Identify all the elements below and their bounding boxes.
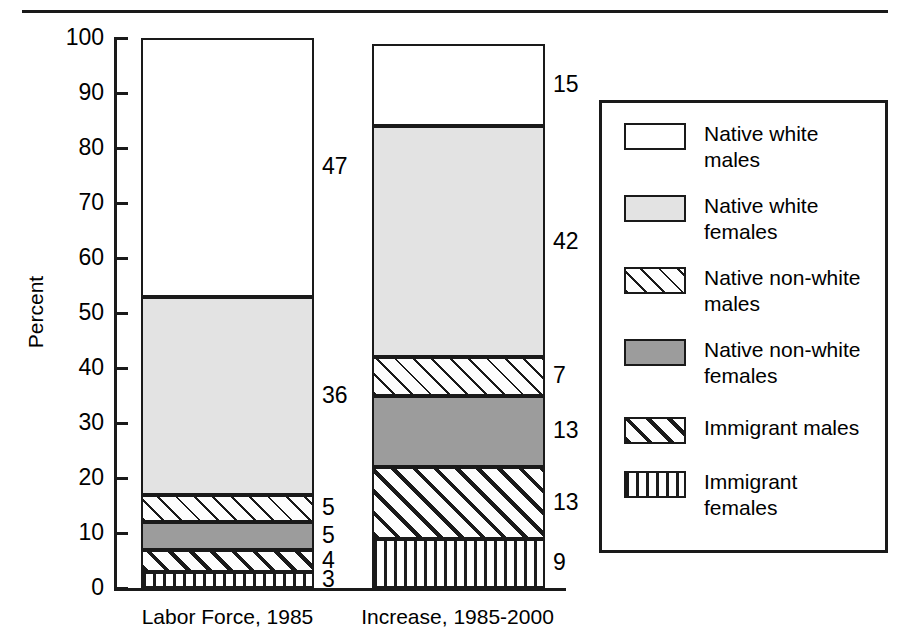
y-tick-mark-90 bbox=[114, 92, 128, 95]
y-tick-mark-50 bbox=[114, 312, 128, 315]
y-tick-mark-100 bbox=[114, 37, 128, 40]
legend-item-native-white-males[interactable]: Native white males bbox=[624, 121, 818, 173]
legend-swatch-white bbox=[624, 123, 686, 150]
y-tick-label-100: 100 bbox=[38, 26, 104, 49]
bar-value-label-labor-force-5: 5 bbox=[322, 524, 335, 547]
bar-value-label-labor-force-5: 5 bbox=[322, 496, 335, 519]
bar-value-label-increase-15: 15 bbox=[553, 73, 579, 96]
y-tick-label-90: 90 bbox=[38, 81, 104, 104]
y-tick-mark-30 bbox=[114, 422, 128, 425]
y-tick-mark-60 bbox=[114, 257, 128, 260]
y-tick-mark-20 bbox=[114, 477, 128, 480]
bar-segment-increase-native-non-white-males bbox=[372, 357, 545, 396]
bar-value-label-increase-13: 13 bbox=[553, 419, 579, 442]
legend-label: Immigrant males bbox=[704, 415, 859, 441]
bar-value-label-increase-42: 42 bbox=[553, 230, 579, 253]
y-tick-label-10: 10 bbox=[38, 521, 104, 544]
y-tick-label-50: 50 bbox=[38, 301, 104, 324]
y-tick-mark-70 bbox=[114, 202, 128, 205]
x-axis-label-increase: Increase, 1985-2000 bbox=[350, 605, 565, 629]
bar-increase bbox=[372, 0, 545, 588]
bar-segment-labor-force-native-non-white-males bbox=[141, 495, 314, 523]
legend-label: Immigrant females bbox=[704, 469, 797, 521]
legend: Native white malesNative white femalesNa… bbox=[599, 100, 888, 553]
legend-item-immigrant-males[interactable]: Immigrant males bbox=[624, 415, 859, 444]
legend-label: Native non-white males bbox=[704, 265, 860, 317]
bar-value-label-increase-13: 13 bbox=[553, 491, 579, 514]
bar-segment-increase-native-white-males bbox=[372, 44, 545, 127]
legend-swatch-light-gray bbox=[624, 195, 686, 222]
legend-item-immigrant-females[interactable]: Immigrant females bbox=[624, 469, 797, 521]
legend-swatch-thick-diagonal-hatch bbox=[624, 417, 686, 444]
bar-labor-force bbox=[141, 0, 314, 588]
bar-segment-increase-immigrant-males bbox=[372, 467, 545, 539]
x-axis-label-labor-force: Labor Force, 1985 bbox=[141, 605, 314, 629]
legend-item-native-white-females[interactable]: Native white females bbox=[624, 193, 818, 245]
y-tick-label-20: 20 bbox=[38, 466, 104, 489]
bar-value-label-labor-force-36: 36 bbox=[322, 384, 348, 407]
x-axis-line bbox=[114, 588, 566, 591]
y-tick-label-70: 70 bbox=[38, 191, 104, 214]
y-tick-label-80: 80 bbox=[38, 136, 104, 159]
legend-label: Native white females bbox=[704, 193, 818, 245]
y-tick-label-60: 60 bbox=[38, 246, 104, 269]
legend-item-native-non-white-males[interactable]: Native non-white males bbox=[624, 265, 860, 317]
y-tick-mark-0 bbox=[114, 587, 128, 590]
bar-segment-labor-force-immigrant-males bbox=[141, 550, 314, 572]
bar-segment-increase-immigrant-females bbox=[372, 539, 545, 589]
bar-value-label-increase-7: 7 bbox=[553, 364, 566, 387]
bar-segment-labor-force-native-white-females bbox=[141, 297, 314, 495]
bar-value-label-labor-force-47: 47 bbox=[322, 155, 348, 178]
legend-label: Native non-white females bbox=[704, 337, 860, 389]
bar-segment-labor-force-immigrant-females bbox=[141, 572, 314, 589]
legend-swatch-thin-diagonal-hatch bbox=[624, 267, 686, 294]
y-tick-mark-80 bbox=[114, 147, 128, 150]
legend-item-native-non-white-females[interactable]: Native non-white females bbox=[624, 337, 860, 389]
legend-label: Native white males bbox=[704, 121, 818, 173]
legend-swatch-vertical-stripe bbox=[624, 471, 686, 498]
bar-value-label-increase-9: 9 bbox=[553, 551, 566, 574]
bar-segment-increase-native-non-white-females bbox=[372, 396, 545, 468]
y-tick-label-0: 0 bbox=[38, 576, 104, 599]
bar-segment-labor-force-native-white-males bbox=[141, 38, 314, 297]
y-tick-mark-10 bbox=[114, 532, 128, 535]
legend-swatch-dark-gray bbox=[624, 339, 686, 366]
bar-value-label-labor-force-4: 4 bbox=[322, 549, 335, 572]
y-tick-label-40: 40 bbox=[38, 356, 104, 379]
y-tick-label-30: 30 bbox=[38, 411, 104, 434]
y-tick-mark-40 bbox=[114, 367, 128, 370]
bar-segment-labor-force-native-non-white-females bbox=[141, 522, 314, 550]
bar-segment-increase-native-white-females bbox=[372, 126, 545, 357]
